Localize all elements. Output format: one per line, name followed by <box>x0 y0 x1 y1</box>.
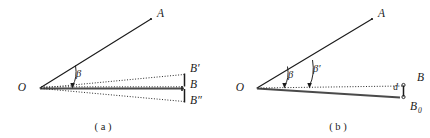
label-angle-beta-prime-panel-b: β′ <box>312 63 321 74</box>
geometry-figure: A O β B′ B B″ ( a ) <box>0 0 430 138</box>
label-point-b0-base-panel-b: B <box>410 100 417 112</box>
label-point-b0-subscript-panel-b: 0 <box>418 106 422 115</box>
dotted-ray-ob-doubleprime-panel-a <box>41 89 184 102</box>
label-point-o-panel-a: O <box>18 81 27 93</box>
panel-a: A O β B′ B B″ ( a ) <box>18 7 202 133</box>
point-a-marker-panel-a <box>150 18 152 20</box>
label-point-b-doubleprime-panel-a: B″ <box>190 94 202 106</box>
ray-oa-panel-b <box>257 19 372 88</box>
label-point-b-panel-b: B <box>417 71 424 83</box>
dotted-ray-ob-panel-b <box>258 86 402 88</box>
dotted-ray-ob-prime-panel-a <box>41 75 184 89</box>
caption-panel-b: ( b ) <box>329 121 347 133</box>
angle-arrowhead-beta-prime-panel-b <box>307 83 312 89</box>
label-point-a-panel-b: A <box>377 7 386 19</box>
label-point-b0-panel-b: B 0 <box>410 100 422 115</box>
segment-ob0-panel-b <box>257 89 400 98</box>
point-a-marker-panel-b <box>371 18 373 20</box>
label-point-o-panel-b: O <box>236 81 245 93</box>
label-angle-beta-panel-b: β <box>287 69 294 80</box>
figure-container: A O β B′ B B″ ( a ) <box>0 0 430 138</box>
label-point-b-panel-a: B <box>190 78 197 90</box>
ray-oa-panel-a <box>40 19 151 88</box>
label-gap-d-panel-b: d <box>393 82 398 92</box>
caption-panel-a: ( a ) <box>95 121 112 133</box>
label-point-b-prime-panel-a: B′ <box>190 62 200 74</box>
label-angle-beta-panel-a: β <box>75 68 82 79</box>
label-point-a-panel-a: A <box>156 7 165 19</box>
panel-b: A O β β′ d B B 0 ( b ) <box>236 7 424 133</box>
